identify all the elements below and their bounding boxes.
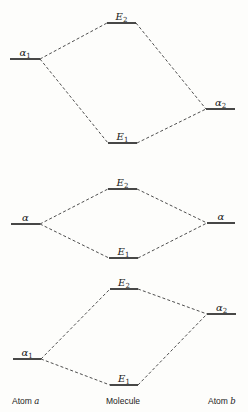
level-label-right: α2 <box>216 302 227 315</box>
diagram-heteronuclear-alpha1-below-alpha2: α1E2E1α2 <box>13 277 236 386</box>
level-label-E2: E2 <box>117 277 130 290</box>
label-molecule: Molecule <box>106 396 140 406</box>
level-label-E1: E1 <box>117 246 130 259</box>
diagram-heteronuclear-alpha1-above-alpha2: α1E2E1α2 <box>10 11 235 144</box>
level-label-left: α1 <box>21 347 32 360</box>
dashed-connector <box>137 189 207 223</box>
dashed-connector <box>40 189 108 224</box>
level-label-E2: E2 <box>116 177 129 190</box>
dashed-connector <box>138 223 207 258</box>
dashed-connector <box>40 224 109 258</box>
dashed-connector <box>41 359 110 385</box>
label-atom-a: Atom a <box>12 396 39 406</box>
level-label-right: α2 <box>215 97 226 110</box>
level-label-E1: E1 <box>117 373 130 386</box>
label-atom-b: Atom b <box>208 396 236 406</box>
level-label-left: α1 <box>19 47 30 60</box>
dashed-connector <box>40 59 108 143</box>
level-label-E2: E2 <box>115 11 128 24</box>
energy-level-diagram: α1E2E1α2αE2E1αα1E2E1α2 <box>0 0 248 412</box>
dashed-connector <box>136 23 206 109</box>
dashed-connector <box>40 23 107 59</box>
level-label-E1: E1 <box>116 131 129 144</box>
dashed-connector <box>41 289 110 359</box>
dashed-connector <box>138 314 207 385</box>
level-label-left: α <box>22 212 29 223</box>
level-label-right: α <box>218 211 225 222</box>
diagram-homonuclear-equal-alpha: αE2E1α <box>11 177 235 259</box>
dashed-connector <box>138 289 207 314</box>
dashed-connector <box>137 109 206 143</box>
